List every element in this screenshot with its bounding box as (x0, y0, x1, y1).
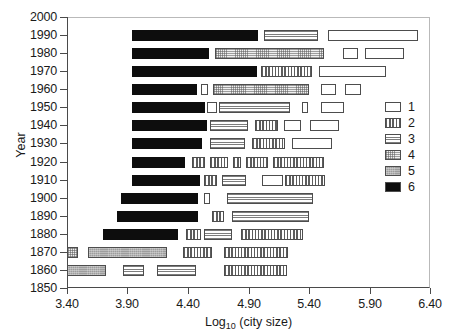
x-axis-tick-label: 5.40 (282, 297, 336, 311)
bar-segment (261, 66, 312, 77)
y-axis-tick-label: 1970 (13, 65, 57, 78)
x-axis-tick (188, 288, 189, 294)
legend-swatch-icon (385, 182, 401, 192)
y-axis-tick (60, 53, 68, 54)
bar-segment (246, 157, 268, 168)
bar-segment (132, 30, 258, 41)
y-axis-tick-label: 1980 (13, 47, 57, 60)
x-axis-tick-label: 3.40 (40, 297, 94, 311)
bar-segment (302, 102, 308, 113)
bar-segment (121, 193, 198, 204)
bar-segment (345, 84, 361, 95)
bar-segment (204, 229, 232, 240)
chart-container: 2000199019801970196019501940193019201910… (0, 0, 449, 336)
legend-swatch-icon (385, 102, 401, 112)
bar-segment (186, 229, 201, 240)
bar-segment (224, 265, 287, 276)
bar-segment (321, 84, 336, 95)
y-axis-tick (60, 234, 68, 235)
y-axis-tick (60, 71, 68, 72)
y-axis-tick-label: 1860 (13, 264, 57, 277)
bar-segment (232, 211, 309, 222)
y-axis-tick-label: 2000 (13, 11, 57, 24)
legend-label: 4 (408, 148, 415, 162)
bar-segment (132, 84, 197, 95)
y-axis-tick (60, 17, 68, 18)
bar-segment (204, 175, 217, 186)
bar-segment (224, 247, 288, 258)
bar-segment (262, 175, 283, 186)
bar-segment (328, 30, 418, 41)
bar-segment (210, 138, 245, 149)
y-axis-tick-label: 1880 (13, 228, 57, 241)
y-axis-tick (60, 216, 68, 217)
y-axis-tick (60, 35, 68, 36)
bar-segment (132, 120, 207, 131)
x-axis-tick-label: 6.40 (403, 297, 449, 311)
bar-segment (132, 66, 257, 77)
bar-segment (132, 175, 200, 186)
y-axis-tick-label: 1990 (13, 29, 57, 42)
legend-label: 1 (408, 100, 415, 114)
bar-segment (132, 48, 209, 59)
bar-segment (319, 66, 386, 77)
bar-segment (264, 30, 318, 41)
legend-label: 5 (408, 164, 415, 178)
bar-segment (285, 175, 325, 186)
bar-segment (132, 102, 205, 113)
bar-segment (365, 48, 404, 59)
bar-segment (117, 211, 198, 222)
bar-segment (132, 138, 202, 149)
bar-segment (310, 120, 339, 131)
y-axis-tick-label: 1910 (13, 174, 57, 187)
y-axis-tick-label: 1900 (13, 192, 57, 205)
bar-segment (212, 211, 224, 222)
x-axis-tick-label: 4.90 (222, 297, 276, 311)
x-axis-title-rest: (city size) (236, 315, 292, 329)
bar-segment (215, 48, 324, 59)
x-axis-tick-label: 4.40 (161, 297, 215, 311)
y-axis-tick (60, 198, 68, 199)
y-axis-tick-label: 1870 (13, 246, 57, 259)
x-axis-tick (127, 288, 128, 294)
x-axis-tick (249, 288, 250, 294)
bar-segment (255, 120, 278, 131)
x-axis-tick (370, 288, 371, 294)
x-axis-title: Log10 (city size) (67, 315, 430, 329)
bar-segment (210, 157, 228, 168)
legend-swatch-icon (385, 134, 401, 144)
legend-label: 2 (408, 116, 415, 130)
bar-segment (67, 247, 78, 258)
x-axis-tick (67, 288, 68, 294)
y-axis-tick (60, 107, 68, 108)
x-axis-tick-label: 5.90 (343, 297, 397, 311)
bar-segment (227, 193, 313, 204)
bar-segment (157, 265, 196, 276)
y-axis-tick (60, 162, 68, 163)
y-axis-tick (60, 143, 68, 144)
bar-segment (183, 247, 212, 258)
x-axis-title-base: Log (205, 315, 226, 329)
bar-segment (210, 120, 248, 131)
bar-segment (201, 84, 208, 95)
legend-label: 6 (408, 180, 415, 194)
bar-segment (213, 84, 309, 95)
y-axis-tick (60, 125, 68, 126)
bar-segment (192, 157, 205, 168)
y-axis-tick (60, 180, 68, 181)
bar-segment (207, 102, 217, 113)
x-axis-tick-label: 3.90 (100, 297, 154, 311)
legend-swatch-icon (385, 150, 401, 160)
y-axis-tick (60, 89, 68, 90)
bar-segment (241, 229, 303, 240)
x-axis-tick (430, 288, 431, 294)
bar-segment (233, 157, 241, 168)
bar-segment (204, 193, 210, 204)
legend-swatch-icon (385, 166, 401, 176)
x-axis-title-subscript: 10 (226, 321, 236, 331)
legend-swatch-icon (385, 118, 401, 128)
legend-label: 3 (408, 132, 415, 146)
bar-segment (284, 120, 301, 131)
y-axis-tick-label: 1950 (13, 101, 57, 114)
bar-segment (123, 265, 144, 276)
